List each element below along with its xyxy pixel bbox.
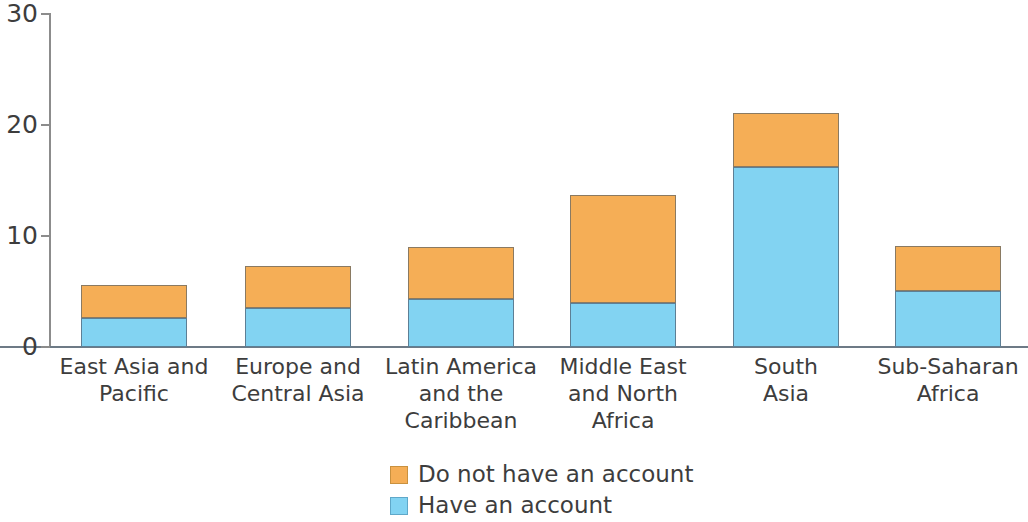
bar-segment-have-an-account — [570, 303, 676, 347]
bar-segment-do-not-have-an-account — [570, 195, 676, 303]
bar-group — [81, 285, 187, 347]
bar-group — [733, 113, 839, 347]
x-axis-category-label: South Asia — [696, 353, 876, 407]
x-axis-category-label: Europe and Central Asia — [208, 353, 388, 407]
bar-group — [245, 266, 351, 347]
legend-item-label: Do not have an account — [418, 463, 693, 486]
y-axis-tick-mark — [41, 124, 50, 126]
bar-segment-do-not-have-an-account — [895, 246, 1001, 292]
bar-segment-do-not-have-an-account — [245, 266, 351, 308]
bar-group — [895, 246, 1001, 347]
legend-color-swatch-icon — [390, 497, 408, 515]
y-axis-tick-label: 20 — [0, 112, 38, 137]
x-axis-category-label: East Asia and Pacific — [44, 353, 224, 407]
y-axis-tick-mark — [41, 346, 50, 348]
legend-item-label: Have an account — [418, 494, 612, 517]
bar-segment-have-an-account — [245, 308, 351, 347]
y-axis-tick-label: 30 — [0, 1, 38, 26]
legend-color-swatch-icon — [390, 466, 408, 484]
bar-segment-have-an-account — [895, 291, 1001, 347]
bar-segment-have-an-account — [81, 318, 187, 347]
legend-item[interactable]: Have an account — [390, 490, 693, 521]
legend-item[interactable]: Do not have an account — [390, 459, 693, 490]
x-axis-category-label: Middle East and North Africa — [533, 353, 713, 434]
bar-group — [408, 247, 514, 347]
bar-segment-have-an-account — [733, 167, 839, 347]
y-axis-tick-mark — [41, 235, 50, 237]
bar-segment-do-not-have-an-account — [733, 113, 839, 167]
y-axis-tick-mark — [41, 13, 50, 15]
stacked-bar-chart: 3020100 East Asia and PacificEurope and … — [0, 0, 1028, 522]
bar-segment-have-an-account — [408, 299, 514, 347]
x-axis-category-label: Latin America and the Caribbean — [371, 353, 551, 434]
bar-segment-do-not-have-an-account — [408, 247, 514, 299]
chart-legend: Do not have an accountHave an account — [390, 459, 693, 521]
y-axis-tick-label: 0 — [0, 334, 38, 359]
x-axis-category-label: Sub-Saharan Africa — [858, 353, 1028, 407]
y-axis-line — [49, 13, 51, 348]
bar-segment-do-not-have-an-account — [81, 285, 187, 318]
bar-group — [570, 195, 676, 347]
y-axis-tick-label: 10 — [0, 223, 38, 248]
